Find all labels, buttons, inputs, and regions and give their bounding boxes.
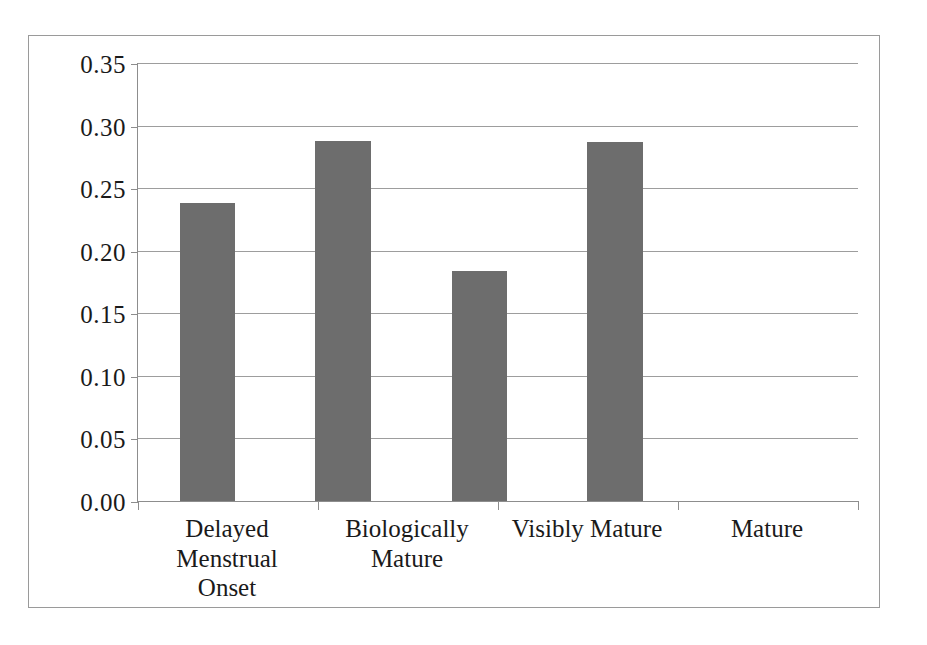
x-category-label-0: Delayed Menstrual Onset (137, 514, 317, 594)
ytick-mark-0.00 (131, 502, 138, 503)
gridline-0.25: 0.25 (138, 188, 858, 189)
ytick-label-0.05: 0.05 (80, 427, 126, 452)
ytick-mark-0.30 (131, 127, 138, 128)
ytick-label-0.25: 0.25 (80, 177, 126, 202)
bar-biologically-mature (315, 141, 371, 501)
ytick-label-0.35: 0.35 (80, 52, 126, 77)
xtick-4 (858, 501, 859, 510)
gridline-0.35: 0.35 (138, 63, 858, 64)
ytick-mark-0.05 (131, 439, 138, 440)
xtick-2 (498, 501, 499, 510)
ytick-mark-0.35 (131, 64, 138, 65)
xtick-0 (138, 501, 139, 510)
x-category-label-3: Mature (677, 514, 857, 594)
x-category-label-2: Visibly Mature (497, 514, 677, 594)
bar-mature (587, 142, 643, 501)
x-category-label-3-line-0: Mature (681, 514, 853, 544)
xtick-1 (318, 501, 319, 510)
bar-visibly-mature (452, 271, 507, 501)
gridline-0.30: 0.30 (138, 126, 858, 127)
x-category-label-1-line-1: Mature (321, 544, 493, 574)
ytick-mark-0.20 (131, 252, 138, 253)
ytick-mark-0.10 (131, 377, 138, 378)
ytick-mark-0.25 (131, 189, 138, 190)
ytick-label-0.15: 0.15 (80, 302, 126, 327)
ytick-label-0.10: 0.10 (80, 364, 126, 389)
ytick-label-0.20: 0.20 (80, 239, 126, 264)
gridline-0.20: 0.20 (138, 251, 858, 252)
plot-area: 0.35 0.30 0.25 0.20 0.15 0.10 0.05 0.00 (137, 63, 858, 502)
x-category-label-0-line-0: Delayed Menstrual (141, 514, 313, 573)
xtick-3 (678, 501, 679, 510)
bar-delayed-menstrual-onset (180, 203, 235, 501)
x-category-label-1: Biologically Mature (317, 514, 497, 594)
ytick-label-0.30: 0.30 (80, 114, 126, 139)
x-category-label-2-line-0: Visibly Mature (501, 514, 673, 544)
x-category-label-1-line-0: Biologically (321, 514, 493, 544)
ytick-label-0.00: 0.00 (80, 490, 126, 515)
chart-figure-frame: 0.35 0.30 0.25 0.20 0.15 0.10 0.05 0.00 (28, 35, 880, 608)
x-category-label-0-line-1: Onset (141, 573, 313, 603)
x-axis-category-labels: Delayed Menstrual Onset Biologically Mat… (137, 514, 857, 594)
ytick-mark-0.15 (131, 314, 138, 315)
